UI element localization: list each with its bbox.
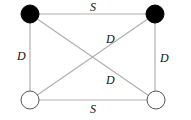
node-bottom-right (147, 91, 165, 109)
edge-label-diagonal-tl-br: D (105, 73, 115, 87)
edge-label-right: D (159, 51, 169, 65)
edge-label-left: D (16, 49, 26, 63)
graph-diagram: S S D D D D (0, 0, 191, 120)
node-top-right (146, 5, 164, 23)
edge-label-top: S (90, 0, 96, 14)
node-top-left (21, 5, 39, 23)
edge-label-bottom: S (90, 102, 96, 116)
edge-label-diagonal-tr-bl: D (105, 32, 115, 46)
node-bottom-left (21, 91, 39, 109)
